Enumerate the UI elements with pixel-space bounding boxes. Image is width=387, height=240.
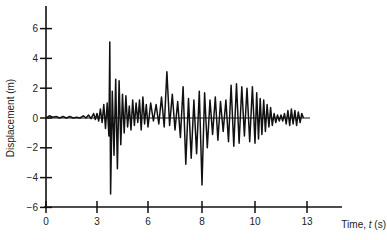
x-tick-label: 13 <box>301 216 313 227</box>
y-tick-label: 6 <box>32 23 38 34</box>
y-tick-label: −6 <box>27 202 39 213</box>
x-ticks: 03681013 <box>43 201 313 227</box>
y-ticks: 6420−2−4−6 <box>27 23 52 213</box>
x-tick-label: 3 <box>94 216 100 227</box>
y-tick-label: −4 <box>27 172 39 183</box>
x-tick-label: 6 <box>145 216 151 227</box>
y-tick-label: 0 <box>32 113 38 124</box>
x-tick-label: 10 <box>249 216 261 227</box>
displacement-time-chart: 6420−2−4−6 03681013 Displacement (m) Tim… <box>0 0 387 240</box>
x-axis-title: Time, t (s) <box>341 219 386 230</box>
x-tick-label: 8 <box>199 216 205 227</box>
y-axis-title: Displacement (m) <box>5 79 16 157</box>
x-tick-label: 0 <box>43 216 49 227</box>
y-tick-label: 2 <box>32 83 38 94</box>
x-axis-title-prefix: Time, <box>341 219 368 230</box>
y-tick-label: −2 <box>27 142 39 153</box>
x-axis-title-unit: (s) <box>372 219 386 230</box>
y-tick-label: 4 <box>32 53 38 64</box>
